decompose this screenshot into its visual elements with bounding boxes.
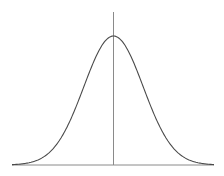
bell-curve-chart <box>0 0 224 176</box>
